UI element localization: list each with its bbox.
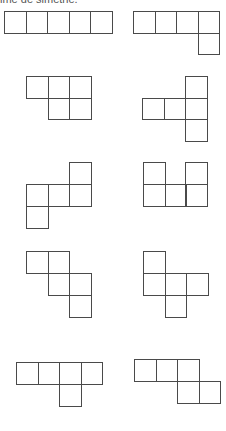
square-cell bbox=[199, 381, 222, 404]
square-cell bbox=[134, 359, 157, 382]
shape-10 bbox=[0, 0, 226, 431]
square-cell bbox=[177, 381, 200, 404]
square-cell bbox=[177, 359, 200, 382]
square-cell bbox=[156, 359, 179, 382]
